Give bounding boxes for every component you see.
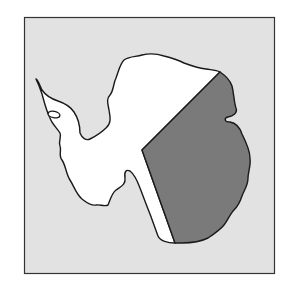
antarctica-map (0, 0, 295, 284)
